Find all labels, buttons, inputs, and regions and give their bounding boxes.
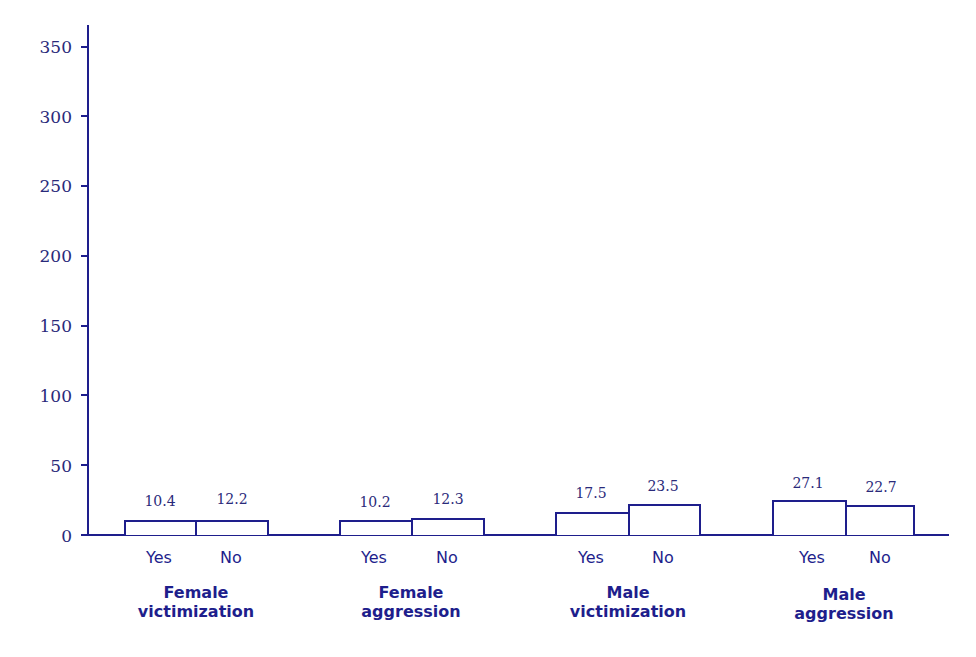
group-label-line2: victimization [538,602,718,621]
y-tick-350 [81,46,88,48]
y-tick-label: 50 [20,456,72,476]
group-label-male-victimization: Male victimization [538,583,718,621]
category-label-yes: Yes [338,548,410,568]
y-tick-label: 250 [20,176,72,196]
bar-male-victimization-no [628,504,701,535]
value-label: 10.4 [120,493,200,509]
y-tick-100 [81,394,88,396]
category-label-no: No [844,548,916,568]
y-tick-0 [81,534,88,536]
bar-male-aggression-yes [772,500,847,535]
category-label-no: No [627,548,699,568]
bar-male-victimization-yes [555,512,630,535]
bar-chart: 0 50 100 150 200 250 300 350 10.4 12.2 Y… [0,0,976,657]
y-tick-200 [81,255,88,257]
category-label-no: No [195,548,267,568]
value-label: 27.1 [768,475,848,491]
group-label-male-aggression: Male aggression [754,585,934,623]
group-label-line1: Female [321,583,501,602]
value-label: 12.2 [192,491,272,507]
category-label-yes: Yes [123,548,195,568]
bar-female-aggression-yes [339,520,413,535]
group-label-female-victimization: Female victimization [106,583,286,621]
group-label-female-aggression: Female aggression [321,583,501,621]
y-axis [87,25,89,536]
bar-male-aggression-no [845,505,915,535]
y-tick-label: 150 [20,316,72,336]
group-label-line2: aggression [321,602,501,621]
y-tick-label: 350 [20,37,72,57]
y-tick-300 [81,115,88,117]
value-label: 17.5 [551,485,631,501]
bar-female-victimization-yes [124,520,197,535]
bar-female-aggression-no [411,518,485,535]
group-label-line1: Female [106,583,286,602]
group-label-line2: victimization [106,602,286,621]
y-tick-label: 200 [20,246,72,266]
value-label: 10.2 [335,494,415,510]
category-label-yes: Yes [555,548,627,568]
category-label-no: No [411,548,483,568]
y-tick-50 [81,464,88,466]
group-label-line1: Male [538,583,718,602]
bar-female-victimization-no [195,520,269,535]
category-label-yes: Yes [776,548,848,568]
y-tick-label: 300 [20,107,72,127]
y-tick-150 [81,325,88,327]
y-tick-label: 0 [20,526,72,546]
value-label: 23.5 [623,478,703,494]
value-label: 22.7 [841,479,921,495]
group-label-line1: Male [754,585,934,604]
group-label-line2: aggression [754,604,934,623]
value-label: 12.3 [408,491,488,507]
y-tick-250 [81,185,88,187]
y-tick-label: 100 [20,386,72,406]
